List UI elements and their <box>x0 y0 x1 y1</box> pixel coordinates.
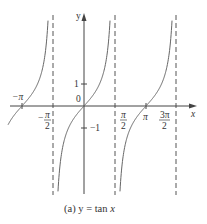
x-tick-label-half-pi: π 2 <box>120 110 127 131</box>
x-tick-label-pi: π <box>143 112 148 122</box>
svg-text:π: π <box>45 110 50 120</box>
svg-text:2: 2 <box>121 121 126 131</box>
svg-text:−: − <box>38 113 43 123</box>
y-axis-label: y <box>76 11 81 21</box>
y-tick-label-neg-1: −1 <box>90 123 100 133</box>
x-axis-arrow-icon <box>189 104 197 109</box>
y-tick-label-1: 1 <box>74 79 79 89</box>
svg-text:2: 2 <box>162 121 167 131</box>
svg-text:2: 2 <box>45 121 50 131</box>
axes <box>10 13 197 194</box>
y-axis-arrow-icon <box>82 13 87 21</box>
tan-branch-left <box>8 21 48 125</box>
x-tick-label-neg-half-pi: − π 2 <box>38 110 51 131</box>
x-tick-label-neg-pi: −π <box>12 92 23 102</box>
x-tick-label-three-half-pi: 3π 2 <box>159 110 170 131</box>
svg-text:3π: 3π <box>160 110 170 120</box>
asymptotes <box>53 15 176 195</box>
tangent-chart: y x 1 0 −1 −π − π 2 π 2 π 3π 2 (a) y = t… <box>0 0 207 224</box>
chart-caption: (a) y = tan x <box>64 203 115 215</box>
origin-label: 0 <box>76 94 81 104</box>
x-axis-label: x <box>190 109 196 119</box>
svg-text:π: π <box>121 110 126 120</box>
